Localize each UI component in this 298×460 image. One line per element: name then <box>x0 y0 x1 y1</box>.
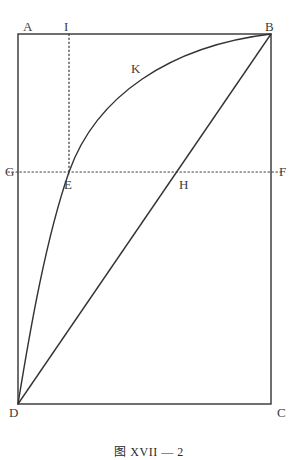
label-h: H <box>179 178 188 191</box>
label-d: D <box>9 406 18 419</box>
diagonal-line-db <box>18 34 271 404</box>
label-f: F <box>279 165 286 178</box>
label-e: E <box>64 178 72 191</box>
label-a: A <box>23 20 32 33</box>
label-i: I <box>64 20 68 33</box>
label-k: K <box>131 62 140 75</box>
label-c: C <box>277 406 286 419</box>
label-b: B <box>265 20 274 33</box>
figure-caption: 图 XVII — 2 <box>0 442 298 460</box>
label-g: G <box>5 165 14 178</box>
